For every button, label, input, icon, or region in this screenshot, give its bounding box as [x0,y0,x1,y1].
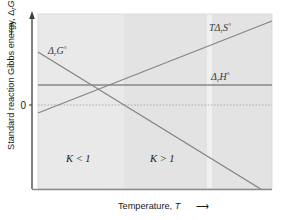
vertical-highlight-band [207,14,212,189]
region-label-k-less-than-one: K < 1 [65,153,91,164]
curve-label-entropy: TΔrS° [209,22,231,34]
x-axis-title-arrow-icon: ⟶ [196,201,209,211]
y-axis-title-arrow-icon: ⟶ [6,22,16,35]
y-axis-title-var: G [6,0,16,7]
x-axis-title-text: Temperature, [118,201,175,211]
curve-label-enthalpy-sup: ° [227,71,230,79]
chart-figure: 0 Standard reaction Gibbs energy, ΔrG° ⟶… [0,0,290,220]
region-label-k-greater-than-one: K > 1 [149,153,175,164]
curve-label-entropy-sup: ° [228,22,231,30]
curve-label-gibbs-main: G [57,45,64,56]
region-k-greater-than-one [124,14,272,189]
gibbs-energy-chart: 0 Standard reaction Gibbs energy, ΔrG° ⟶… [0,0,290,220]
curve-label-gibbs-sup: ° [64,45,67,53]
x-axis-title: Temperature, T [118,201,182,211]
curve-label-entropy-t: TΔ [209,22,221,33]
y-tick-label-zero: 0 [20,100,26,111]
